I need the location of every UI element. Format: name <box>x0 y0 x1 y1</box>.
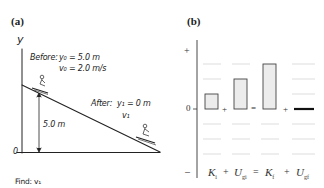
origin-label: 0 <box>13 147 18 156</box>
term-symbol: U <box>234 166 242 178</box>
equation-equals: = <box>253 166 259 177</box>
term-k-initial: Ki <box>208 166 217 180</box>
bar-k-initial <box>205 94 218 109</box>
after-title: After: <box>91 99 112 108</box>
term-symbol: U <box>296 166 304 178</box>
before-v0: v₀ = 2.0 m/s <box>59 64 106 73</box>
incline-line <box>22 85 160 152</box>
bar-k-final <box>263 64 276 109</box>
y-axis-label: y <box>17 33 23 46</box>
term-subscript: f <box>272 174 274 180</box>
term-ug-initial: Ugi <box>234 166 247 180</box>
after-v1: v₁ <box>122 111 130 120</box>
bar-ug-initial <box>234 79 247 109</box>
term-k-final: Kf <box>265 166 274 180</box>
equation-plus-2: + <box>284 166 290 177</box>
axis-minus-label: – <box>185 166 190 177</box>
panel-a-label: (a) <box>11 15 24 27</box>
operator-equals: = <box>251 103 256 113</box>
panel-b-label: (b) <box>187 15 200 27</box>
term-subscript: gf <box>304 174 309 180</box>
after-y1: y₁ = 0 m <box>117 99 151 108</box>
term-subscript: gi <box>242 174 247 180</box>
before-title: Before: <box>30 53 58 62</box>
height-label: 5.0 m <box>43 120 65 129</box>
equation-plus-1: + <box>223 166 229 177</box>
operator-plus-2: + <box>283 104 288 114</box>
axis-plus-label: + <box>184 45 190 56</box>
term-ug-final: Ugf <box>296 166 309 180</box>
figure-canvas <box>0 0 324 188</box>
operator-plus-1: + <box>222 104 227 114</box>
term-subscript: i <box>215 174 217 180</box>
find-label: Find: v₁ <box>15 177 41 186</box>
height-arrow-head-bottom <box>37 148 41 152</box>
before-y0: y₀ = 5.0 m <box>59 53 100 62</box>
axis-zero-label: 0 <box>186 103 191 113</box>
